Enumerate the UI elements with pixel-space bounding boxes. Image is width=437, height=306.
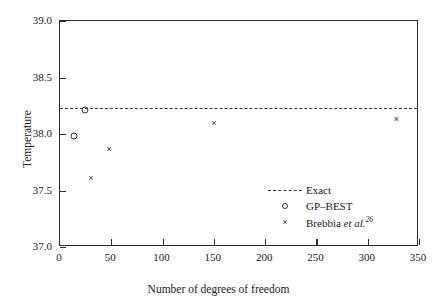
x-axis-tick-label: 200 bbox=[256, 252, 273, 263]
y-axis-tick-label: 37.0 bbox=[18, 241, 52, 252]
x-axis-tick-label: 100 bbox=[153, 252, 170, 263]
y-axis-tick bbox=[60, 134, 66, 135]
data-point-circle bbox=[81, 107, 88, 114]
chart-legend: Exact GP–BEST × Brebbia et al.26 bbox=[264, 182, 373, 230]
data-point-cross: × bbox=[107, 144, 112, 153]
cross-marker-icon: × bbox=[264, 217, 306, 227]
x-axis-tick bbox=[163, 239, 164, 245]
exact-reference-line bbox=[60, 108, 417, 109]
legend-label-brebbia-prefix: Brebbia bbox=[306, 217, 344, 229]
legend-label-gp-best: GP–BEST bbox=[306, 200, 352, 212]
data-point-cross: × bbox=[394, 115, 399, 124]
x-axis-tick bbox=[265, 239, 266, 245]
x-axis-tick bbox=[111, 239, 112, 245]
data-point-cross: × bbox=[211, 118, 216, 127]
y-axis-tick bbox=[60, 247, 66, 248]
x-axis-tick-label: 0 bbox=[56, 252, 62, 263]
legend-item-brebbia: × Brebbia et al.26 bbox=[264, 214, 373, 230]
y-axis-tick bbox=[60, 191, 66, 192]
y-axis-tick bbox=[60, 78, 66, 79]
chart-figure: Temperature Number of degrees of freedom… bbox=[0, 0, 437, 306]
y-axis-title: Temperature bbox=[21, 110, 33, 168]
circle-marker-icon bbox=[264, 203, 306, 210]
legend-item-gp-best: GP–BEST bbox=[264, 198, 373, 214]
y-axis-tick-label: 38.5 bbox=[18, 71, 52, 82]
data-point-cross: × bbox=[88, 174, 93, 183]
legend-label-exact: Exact bbox=[306, 184, 331, 196]
x-axis-tick bbox=[316, 239, 317, 245]
x-axis-tick bbox=[368, 239, 369, 245]
y-axis-tick-label: 39.0 bbox=[18, 15, 52, 26]
x-axis-tick-label: 50 bbox=[105, 252, 116, 263]
x-axis-tick-label: 350 bbox=[410, 252, 427, 263]
x-axis-tick-label: 300 bbox=[358, 252, 375, 263]
x-axis-title: Number of degrees of freedom bbox=[0, 283, 437, 295]
legend-label-brebbia-italic: et al. bbox=[344, 217, 366, 229]
legend-item-exact: Exact bbox=[264, 182, 373, 198]
y-axis-tick-label: 38.0 bbox=[18, 128, 52, 139]
legend-label-brebbia: Brebbia et al.26 bbox=[306, 215, 373, 229]
y-axis-tick bbox=[60, 21, 66, 22]
y-axis-tick-label: 37.5 bbox=[18, 184, 52, 195]
x-axis-tick-label: 250 bbox=[307, 252, 324, 263]
x-axis-tick bbox=[214, 239, 215, 245]
data-point-circle bbox=[71, 133, 78, 140]
x-axis-tick-label: 150 bbox=[205, 252, 222, 263]
x-axis-tick bbox=[419, 239, 420, 245]
dashed-line-icon bbox=[264, 190, 306, 191]
legend-label-brebbia-citation: 26 bbox=[366, 215, 374, 224]
